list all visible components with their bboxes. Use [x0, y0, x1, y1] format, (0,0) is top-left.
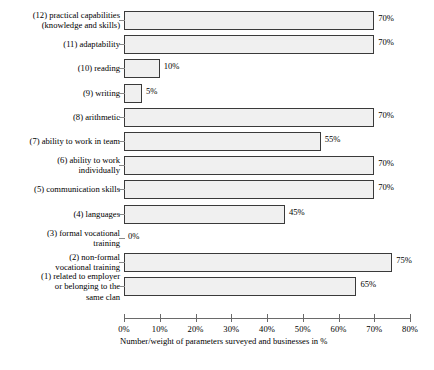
y-axis-tick: [119, 189, 125, 190]
x-axis-tick: [231, 314, 232, 322]
bar-value-label: 70%: [378, 182, 394, 193]
category-label: (7) ability to work in team: [0, 136, 120, 146]
x-axis-tick: [410, 314, 411, 322]
bar: [124, 35, 374, 54]
bar: [124, 59, 160, 78]
y-axis-tick: [119, 238, 125, 239]
category-label: (12) practical capabilities (knowledge a…: [0, 10, 120, 30]
bar-value-label: 70%: [378, 13, 394, 24]
x-axis-tick: [196, 314, 197, 322]
bar-value-label: 0%: [128, 231, 139, 242]
x-axis-tick-label: 60%: [319, 324, 359, 334]
bar-row: (4) languages45%: [0, 203, 434, 227]
category-label: (5) communication skills: [0, 184, 120, 194]
category-label: (2) non-formal vocational training: [0, 252, 120, 272]
x-axis-tick-label: 20%: [176, 324, 216, 334]
x-axis-tick: [374, 314, 375, 322]
bar-row: (3) formal vocational training0%: [0, 227, 434, 251]
x-axis-tick: [339, 314, 340, 322]
category-label: (4) languages: [0, 209, 120, 219]
bar: [124, 108, 374, 127]
bar: [124, 277, 356, 296]
bar: [124, 11, 374, 30]
category-label: (1) related to employer or belonging to …: [0, 271, 120, 302]
category-label: (10) reading: [0, 63, 120, 73]
bar-value-label: 5%: [146, 86, 157, 97]
x-axis-tick: [303, 314, 304, 322]
bar-row: (6) ability to work individually70%: [0, 154, 434, 178]
x-axis-tick-label: 10%: [140, 324, 180, 334]
category-label: (3) formal vocational training: [0, 228, 120, 248]
bar-value-label: 45%: [289, 207, 305, 218]
y-axis-tick: [119, 165, 125, 166]
category-label: (8) arithmetic: [0, 112, 120, 122]
x-axis-tick-label: 80%: [390, 324, 430, 334]
bar-chart: (12) practical capabilities (knowledge a…: [0, 0, 434, 370]
y-axis-tick: [119, 117, 125, 118]
x-axis-tick-label: 50%: [283, 324, 323, 334]
x-axis-tick-label: 40%: [247, 324, 287, 334]
bar-row: (10) reading10%: [0, 57, 434, 81]
y-axis-tick: [119, 44, 125, 45]
x-axis-tick: [267, 314, 268, 322]
bar: [124, 84, 142, 103]
bar-value-label: 70%: [378, 158, 394, 169]
category-label: (6) ability to work individually: [0, 155, 120, 175]
bar-value-label: 75%: [396, 255, 412, 266]
x-axis-title: Number/weight of parameters surveyed and…: [120, 336, 420, 347]
bar-value-label: 70%: [378, 110, 394, 121]
bar: [124, 253, 392, 272]
bar: [124, 132, 321, 151]
bar-row: (5) communication skills70%: [0, 178, 434, 202]
bar-value-label: 65%: [360, 279, 376, 290]
y-axis-tick: [119, 141, 125, 142]
y-axis-tick: [119, 286, 125, 287]
bar: [124, 180, 374, 199]
y-axis-tick: [119, 93, 125, 94]
bar-row: (11) adaptability70%: [0, 33, 434, 57]
x-axis-tick: [160, 314, 161, 322]
bar-row: (7) ability to work in team55%: [0, 130, 434, 154]
y-axis-tick: [119, 68, 125, 69]
bar-value-label: 10%: [164, 61, 180, 72]
x-axis-tick-label: 0%: [104, 324, 144, 334]
bar-value-label: 55%: [325, 134, 341, 145]
bar-row: (1) related to employer or belonging to …: [0, 275, 434, 299]
x-axis-tick: [124, 314, 125, 322]
bar: [124, 156, 374, 175]
bar-row: (9) writing5%: [0, 82, 434, 106]
category-label: (11) adaptability: [0, 39, 120, 49]
y-axis-tick: [119, 20, 125, 21]
x-axis-tick-label: 30%: [211, 324, 251, 334]
category-label: (9) writing: [0, 88, 120, 98]
bar-row: (12) practical capabilities (knowledge a…: [0, 9, 434, 33]
y-axis-tick: [119, 262, 125, 263]
bar-value-label: 70%: [378, 37, 394, 48]
x-axis-tick-label: 70%: [354, 324, 394, 334]
y-axis-tick: [119, 214, 125, 215]
bar: [124, 205, 285, 224]
bar-row: (8) arithmetic70%: [0, 106, 434, 130]
